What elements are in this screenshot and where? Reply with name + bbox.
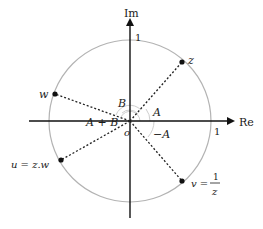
imag-axis-label: Im xyxy=(124,7,139,20)
angle-A-label: A xyxy=(152,106,161,119)
angle-A-plus-B-label: A + B xyxy=(85,116,118,129)
point-w-label: w xyxy=(39,88,49,101)
angle-B-label: B xyxy=(117,97,126,110)
arc-A xyxy=(146,109,150,121)
real-unit-label: 1 xyxy=(214,126,220,137)
point-v-label: v = 1 z xyxy=(191,172,220,197)
origin-label: o xyxy=(124,127,130,138)
point-u xyxy=(58,157,63,162)
angle-minus-A-label: −A xyxy=(153,128,170,141)
point-u-label: u = z.w xyxy=(11,159,50,170)
point-w xyxy=(52,91,57,96)
point-v-label-denominator: z xyxy=(211,186,218,197)
imag-unit-label: 1 xyxy=(135,32,141,43)
real-axis-label: Re xyxy=(239,116,254,129)
point-v-label-numerator: 1 xyxy=(213,172,219,182)
point-z-label: z xyxy=(187,54,194,67)
point-v xyxy=(179,178,184,183)
point-v-label-prefix: v = xyxy=(191,178,208,189)
point-z xyxy=(179,59,184,64)
complex-plane-diagram: Im Re 1 1 o z w u = z.w v = 1 z A B A + … xyxy=(0,0,263,229)
